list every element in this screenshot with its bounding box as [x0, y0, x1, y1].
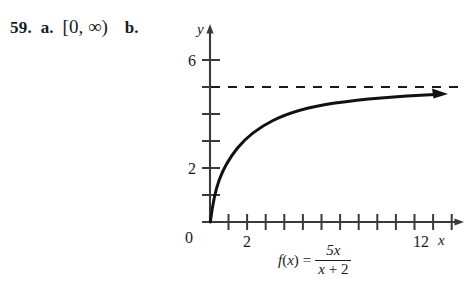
function-formula: f(x) = 5x x + 2	[278, 243, 351, 278]
answer-line: 59. a. [0, ∞) b.	[10, 16, 139, 38]
y-tick-label-6: 6	[188, 52, 196, 69]
denominator-operator: +	[325, 261, 341, 277]
formula-denominator: x + 2	[315, 261, 351, 278]
part-a-label: a.	[41, 18, 54, 38]
formula-numerator: 5x	[323, 243, 343, 260]
origin-label: 0	[185, 229, 193, 246]
y-axis	[206, 24, 213, 222]
figure-page: 59. a. [0, ∞) b.	[0, 0, 468, 299]
formula-fraction: 5x x + 2	[315, 243, 351, 278]
formula-argument: x	[287, 252, 294, 269]
question-number: 59.	[10, 18, 32, 38]
curve-fx	[210, 89, 448, 222]
part-a-interval-value: [0, ∞)	[63, 16, 108, 38]
y-tick-label-2: 2	[188, 160, 196, 177]
denominator-constant: 2	[341, 261, 349, 277]
part-b-label: b.	[125, 18, 139, 38]
formula-paren-close: )	[294, 252, 299, 269]
formula-equals: =	[303, 252, 311, 269]
x-axis	[202, 218, 464, 225]
x-tick-label-2: 2	[243, 233, 251, 250]
x-tick-label-12: 12	[413, 233, 429, 250]
y-axis-label: y	[195, 21, 204, 37]
x-axis-label: x	[437, 232, 445, 248]
denominator-variable: x	[318, 261, 325, 277]
